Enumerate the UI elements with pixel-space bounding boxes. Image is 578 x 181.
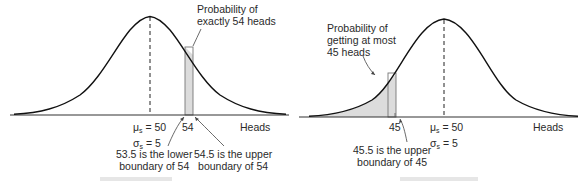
callout-line: boundary of 54 [116,160,192,172]
mean-sd-right: μs = 50 σs = 5 [430,121,463,153]
callout-line: 54.5 is the upper [194,148,272,160]
lower-boundary-callout: 53.5 is the lower boundary of 54 [116,148,192,172]
upper-boundary-callout-45: 45.5 is the upper boundary of 45 [353,144,431,168]
callout-line: getting at most [327,34,396,46]
tick-label-54: 54 [182,121,194,133]
mean-label: μs = 50 [133,121,166,137]
sd-label: σs = 5 [430,137,463,153]
mean-label: μs = 50 [430,121,463,137]
callout-line: Probability of [197,3,276,15]
callout-line: boundary of 54 [194,160,272,172]
shaded-tail-45 [309,74,396,117]
callout-line: exactly 54 heads [197,15,276,27]
at-most-45-callout: Probability of getting at most 45 heads [327,22,396,58]
callout-line: 45.5 is the upper [353,144,431,156]
title-leader-left [193,29,201,46]
axis-label-heads-left: Heads [240,121,270,133]
upper-boundary-arrow [195,117,224,146]
normal-curve-figures [0,0,578,181]
exactly-54-callout: Probability of exactly 54 heads [197,3,276,27]
axis-label-heads-right: Heads [533,121,563,133]
figure-caption-right [400,177,478,181]
callout-line: 53.5 is the lower [116,148,192,160]
figure-caption-left [100,177,172,181]
tick-label-45: 45 [389,121,401,133]
callout-line: Probability of [327,22,396,34]
callout-line: boundary of 45 [353,156,431,168]
upper-boundary-callout: 54.5 is the upper boundary of 54 [194,148,272,172]
callout-line: 45 heads [327,46,396,58]
upper-boundary-arrow-45 [400,119,407,142]
